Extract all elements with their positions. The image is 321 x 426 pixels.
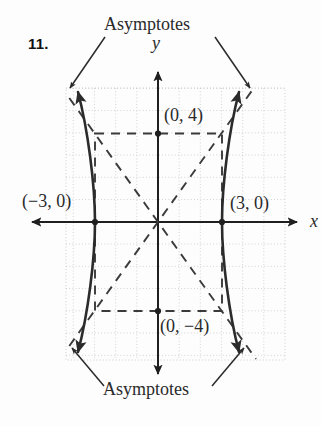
x-axis-label: x	[310, 212, 318, 230]
annotation-arrows-top	[70, 37, 250, 88]
hyperbola-figure	[0, 0, 321, 426]
figure-page: 11. Asymptotes Asymptotes y x (0, 4) (0,…	[0, 0, 321, 426]
point-label-bottom-covertex: (0, −4)	[160, 317, 209, 335]
point-top-covertex	[155, 130, 161, 136]
point-bottom-covertex	[155, 308, 161, 314]
point-left-vertex	[92, 219, 98, 225]
point-label-top-covertex: (0, 4)	[164, 106, 203, 124]
point-label-right-vertex: (3, 0)	[230, 194, 269, 212]
point-label-left-vertex: (−3, 0)	[22, 192, 71, 210]
arrow-top-left	[70, 37, 105, 88]
point-right-vertex	[219, 219, 225, 225]
y-axis-label: y	[152, 34, 160, 52]
problem-number: 11.	[28, 36, 49, 51]
arrow-top-right	[215, 37, 250, 88]
asymptotes-bottom-label: Asymptotes	[103, 380, 189, 398]
asymptotes-top-label: Asymptotes	[104, 15, 190, 33]
